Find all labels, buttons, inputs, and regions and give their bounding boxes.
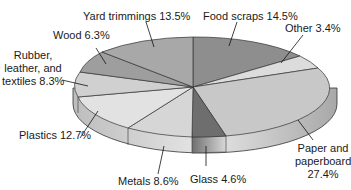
label-plastics: Plastics 12.7% — [19, 129, 91, 142]
glass-side — [192, 136, 226, 153]
label-food-scraps: Food scraps 14.5% — [203, 10, 298, 23]
label-paper-line3: 27.4% — [295, 168, 351, 181]
label-rubber-line3: textiles 8.3% — [2, 75, 64, 88]
label-rubber-line1: Rubber, — [2, 49, 64, 62]
label-rubber-line2: leather, and — [2, 62, 64, 75]
label-glass: Glass 4.6% — [190, 173, 246, 186]
label-paper-line1: Paper and — [295, 142, 351, 155]
label-paper: Paper and paperboard 27.4% — [295, 142, 351, 181]
label-wood: Wood 6.3% — [53, 29, 110, 42]
label-other: Other 3.4% — [285, 22, 341, 35]
label-rubber: Rubber, leather, and textiles 8.3% — [2, 49, 64, 88]
label-metals: Metals 8.6% — [118, 175, 179, 188]
label-paper-line2: paperboard — [295, 155, 351, 168]
label-yard: Yard trimmings 13.5% — [83, 10, 190, 23]
